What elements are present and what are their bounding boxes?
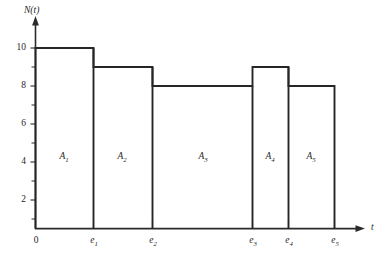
plot-canvas — [0, 0, 391, 260]
area-label-a3: A3 — [198, 152, 207, 164]
y-axis-title: N(t) — [24, 6, 39, 16]
x-axis-ticks — [94, 221, 335, 229]
figure-step-function: N(t) t 10 8 6 4 2 0 e1 e2 e3 e4 e5 A1 A2… — [0, 0, 391, 260]
x-axis-arrowhead — [356, 225, 366, 232]
area-label-a5: A5 — [306, 152, 315, 164]
y-axis-arrowhead — [32, 16, 39, 26]
y-tick-label-8: 8 — [8, 81, 26, 91]
x-tick-label-e4: e4 — [280, 236, 298, 248]
area-label-a4: A4 — [265, 152, 274, 164]
x-tick-label-e5: e5 — [326, 236, 344, 248]
x-tick-label-e2: e2 — [144, 236, 162, 248]
y-tick-label-6: 6 — [8, 119, 26, 129]
interval-separators — [94, 48, 289, 229]
step-function-outline — [36, 48, 335, 229]
x-tick-label-e1: e1 — [85, 236, 103, 248]
x-tick-label-e3: e3 — [244, 236, 262, 248]
x-tick-label-origin: 0 — [30, 236, 42, 246]
y-tick-label-2: 2 — [8, 195, 26, 205]
area-label-a2: A2 — [117, 152, 126, 164]
area-label-a1: A1 — [59, 152, 68, 164]
y-tick-label-10: 10 — [8, 43, 26, 53]
x-axis-title: t — [371, 223, 374, 233]
x-axis-group — [35, 225, 365, 232]
y-tick-label-4: 4 — [8, 157, 26, 167]
